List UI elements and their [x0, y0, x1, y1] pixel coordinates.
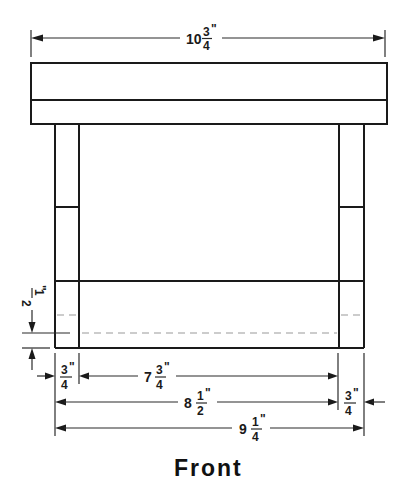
dim-rail-offset: 1 2 " — [19, 285, 70, 370]
view-title: Front — [174, 455, 243, 481]
svg-text:1: 1 — [252, 415, 259, 429]
svg-text:": " — [69, 360, 75, 374]
top-board-outline — [31, 63, 387, 124]
svg-text:": " — [211, 22, 217, 36]
dim-left-leg-width: 3 " 4 — [37, 360, 75, 392]
svg-text:": " — [205, 386, 211, 400]
dim-overall-top-width: 10 3 " 4 — [31, 22, 385, 57]
svg-text:3: 3 — [345, 389, 352, 403]
svg-text:2: 2 — [197, 404, 204, 418]
front-view-drawing: 10 3 " 4 1 2 " 3 " 4 — [0, 0, 412, 490]
svg-text:3: 3 — [61, 363, 68, 377]
svg-text:10: 10 — [186, 31, 202, 47]
svg-text:": " — [260, 412, 266, 426]
top-board — [31, 63, 387, 124]
svg-text:": " — [34, 285, 48, 291]
hidden-lines — [57, 315, 363, 333]
svg-text:4: 4 — [156, 378, 163, 392]
svg-text:1: 1 — [197, 389, 204, 403]
svg-text:9: 9 — [239, 421, 247, 437]
svg-text:4: 4 — [203, 39, 210, 53]
svg-text:4: 4 — [252, 430, 259, 444]
svg-text:2: 2 — [19, 300, 33, 307]
svg-text:4: 4 — [61, 378, 68, 392]
svg-text:7: 7 — [144, 369, 152, 385]
svg-text:3: 3 — [203, 25, 210, 39]
svg-text:4: 4 — [345, 404, 352, 418]
svg-text:": " — [164, 360, 170, 374]
dim-overall-base-width: 9 1 " 4 — [55, 412, 364, 444]
dim-leg-to-leg-width: 8 1 " 2 — [55, 386, 338, 418]
bottom-rail — [55, 281, 364, 348]
svg-text:3: 3 — [156, 363, 163, 377]
svg-text:": " — [353, 386, 359, 400]
svg-text:8: 8 — [184, 395, 192, 411]
